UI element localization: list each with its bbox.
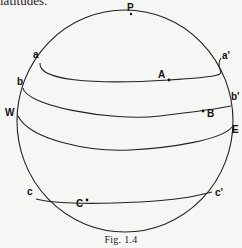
parallel-c: [36, 192, 212, 204]
label-a: a: [33, 49, 39, 60]
globe-outline: [17, 10, 233, 232]
label-B: B: [207, 108, 214, 119]
label-C: C: [76, 198, 83, 209]
figure-caption: Fig. 1.4: [0, 234, 242, 245]
point-B: [202, 110, 205, 113]
point-C: [86, 199, 89, 202]
point-A: [168, 79, 171, 82]
label-a-prime: a': [222, 50, 230, 61]
label-P: P: [127, 2, 134, 13]
label-b-prime: b': [231, 91, 240, 102]
label-c: c: [27, 186, 33, 197]
label-A: A: [158, 69, 165, 80]
parallel-a: [40, 58, 221, 82]
label-c-prime: c': [215, 187, 223, 198]
equator: [18, 116, 232, 150]
label-W: W: [5, 107, 15, 118]
label-E: E: [232, 124, 239, 135]
label-b: b: [17, 76, 23, 87]
globe-diagram: P a a' A b b' B W E c c' C: [0, 0, 242, 248]
pole-point: [130, 13, 132, 15]
parallel-b: [23, 88, 231, 117]
